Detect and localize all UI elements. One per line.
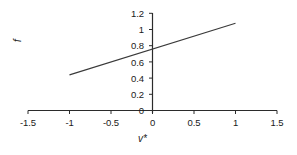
chart-container: 1.2 1 0.8 0.6 0.4 0.2 0 -1.5 -1 -0.5 0 0… bbox=[0, 0, 297, 155]
x-tick-label-1: 1 bbox=[216, 118, 256, 128]
plot-canvas bbox=[0, 0, 297, 155]
x-tick-label-1.5: 1.5 bbox=[257, 118, 297, 128]
x-tick-label--1: -1 bbox=[50, 118, 90, 128]
x-tick-label-0.5: 0.5 bbox=[174, 118, 214, 128]
y-tick-label-0.8: 0.8 bbox=[108, 41, 144, 51]
x-tick-label--0.5: -0.5 bbox=[91, 118, 131, 128]
x-axis-title: v* bbox=[138, 133, 147, 144]
y-axis-title: f bbox=[12, 39, 23, 42]
x-tick-label-0: 0 bbox=[133, 118, 173, 128]
y-tick-label-0.4: 0.4 bbox=[108, 74, 144, 84]
y-tick-label-1.2: 1.2 bbox=[108, 9, 144, 19]
y-tick-label-1: 1 bbox=[108, 25, 144, 35]
x-tick-label--1.5: -1.5 bbox=[8, 118, 48, 128]
y-tick-label-0.6: 0.6 bbox=[108, 58, 144, 68]
y-tick-label-0: 0 bbox=[108, 106, 144, 116]
y-tick-label-0.2: 0.2 bbox=[108, 90, 144, 100]
